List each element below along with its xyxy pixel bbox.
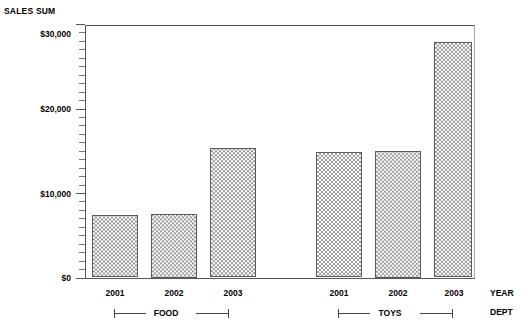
group-label-food: FOOD [137,308,195,318]
y-tick-major-0 [76,278,85,279]
x-label-toys-2001: 2001 [316,288,362,298]
y-tick-minor [79,218,85,219]
y-tick-minor [79,142,85,143]
y-tick-minor [79,117,85,118]
y-tick-minor [79,269,85,270]
x-axis-row-label-year: YEAR [490,288,514,298]
y-tick-major-2 [76,109,85,110]
group-bracket-segment-food-right [196,313,229,314]
y-tick-label-2: $20,000 [1,104,71,114]
y-tick-minor [79,66,85,67]
y-tick-minor [79,32,85,33]
y-tick-minor [79,244,85,245]
group-bracket-cap-food-right [228,309,229,318]
group-label-toys: TOYS [361,308,419,318]
bar-chart: SALES SUM $0 $10,000 $20,000 $30,000 200… [0,0,529,336]
y-tick-major-3 [76,24,85,25]
y-tick-minor [79,252,85,253]
y-tick-label-1: $10,000 [1,189,71,199]
x-label-food-2003: 2003 [210,288,256,298]
y-tick-minor [79,227,85,228]
x-axis-baseline [85,278,475,279]
y-tick-minor [79,83,85,84]
bar-food-2001[interactable] [92,215,138,278]
bar-toys-2002[interactable] [375,151,421,278]
y-tick-label-3: $30,000 [1,29,71,39]
y-tick-label-0: $0 [1,273,71,283]
y-tick-minor [79,168,85,169]
y-tick-minor [79,151,85,152]
x-label-food-2002: 2002 [151,288,197,298]
y-tick-minor [79,41,85,42]
x-label-toys-2003: 2003 [431,288,477,298]
y-tick-minor [79,185,85,186]
bar-toys-2003[interactable] [434,42,472,278]
y-tick-minor [79,134,85,135]
x-axis-row-label-dept: DEPT [490,307,513,317]
y-tick-major-1 [76,193,85,194]
y-tick-minor [79,100,85,101]
y-tick-minor [79,201,85,202]
bar-food-2002[interactable] [151,214,197,277]
x-label-food-2001: 2001 [92,288,138,298]
bar-toys-2001[interactable] [316,152,362,278]
y-axis-title: SALES SUM [4,6,55,16]
bar-food-2003[interactable] [210,148,256,277]
y-tick-minor [79,176,85,177]
group-bracket-segment-toys-right [420,313,453,314]
y-tick-minor [79,92,85,93]
y-tick-minor [79,58,85,59]
y-tick-minor [79,261,85,262]
y-tick-minor [79,75,85,76]
y-tick-minor [79,235,85,236]
y-tick-minor [79,159,85,160]
y-tick-minor [79,125,85,126]
y-tick-minor [79,49,85,50]
y-tick-minor [79,210,85,211]
x-label-toys-2002: 2002 [375,288,421,298]
group-bracket-cap-toys-right [452,309,453,318]
